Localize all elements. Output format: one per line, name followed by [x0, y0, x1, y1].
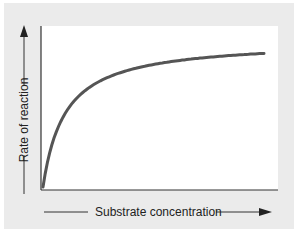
x-axis-label: Substrate concentration — [95, 205, 222, 219]
x-arrow-head-icon — [259, 208, 272, 216]
saturation-curve — [43, 53, 264, 187]
y-arrow-head-icon — [20, 25, 28, 37]
chart-canvas — [0, 0, 303, 233]
y-axis-label: Rate of reaction — [17, 78, 31, 163]
